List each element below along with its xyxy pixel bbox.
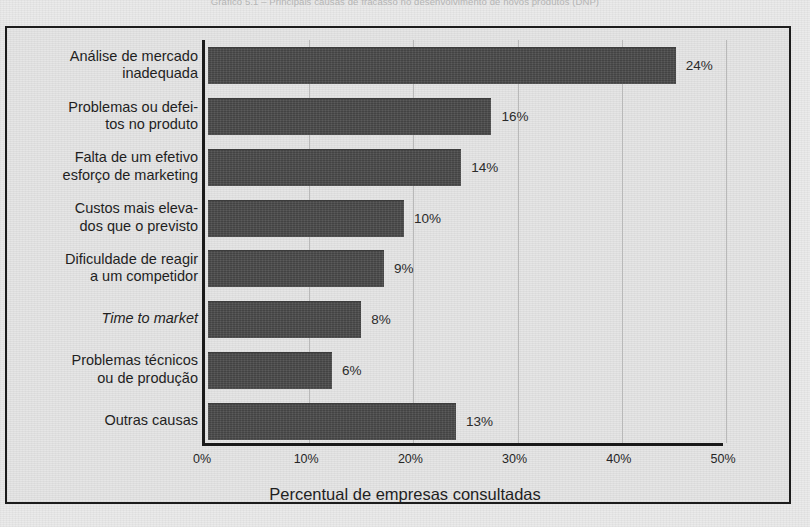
bar-row: 16% [208,98,723,134]
category-label: Time to market [10,310,198,328]
x-axis-ticks: 0%10%20%30%40%50% [202,452,723,470]
x-axis-tick-label: 40% [606,452,631,466]
bar [208,250,384,287]
x-axis-tick-label: 10% [294,452,319,466]
category-label-line: a um competidor [10,268,198,286]
bar-row: 24% [208,47,723,83]
category-label-line: inadequada [10,65,198,83]
bar [208,403,456,440]
category-label-line: tos no produto [10,116,198,134]
x-axis-title: Percentual de empresas consultadas [0,485,810,504]
bar-rows: 24%16%14%10%9%8%6%13% [205,40,723,443]
category-label-line: Análise de mercado [10,48,198,66]
category-label-line: ou de produção [10,370,198,388]
x-axis-tick-label: 0% [193,452,211,466]
category-label: Dificuldade de reagira um competidor [10,251,198,286]
category-label-line: Problemas ou defei- [10,99,198,117]
bar-value-label: 6% [342,362,362,377]
category-label: Problemas ou defei-tos no produto [10,99,198,134]
bar [208,98,491,135]
bar [208,301,361,338]
category-label-line: Problemas técnicos [10,352,198,370]
bar [208,200,404,237]
bar-row: 13% [208,403,723,439]
category-label: Outras causas [10,412,198,430]
bar-value-label: 9% [394,261,414,276]
bar [208,47,676,84]
category-label: Custos mais eleva-dos que o previsto [10,200,198,235]
category-label: Análise de mercadoinadequada [10,48,198,83]
category-label-line: Dificuldade de reagir [10,251,198,269]
bar [208,149,461,186]
bar-row: 10% [208,200,723,236]
plot-area: 24%16%14%10%9%8%6%13% [202,40,723,446]
bar-row: 9% [208,250,723,286]
bar [208,352,332,389]
bar-value-label: 10% [414,210,441,225]
plot-axes: 24%16%14%10%9%8%6%13% [202,40,723,446]
category-label-line: Falta de um efetivo [10,149,198,167]
category-label-line: Custos mais eleva- [10,200,198,218]
figure-caption: Gráfico 5.1 – Principais causas de fraca… [0,0,810,8]
category-label-line: Outras causas [10,412,198,430]
bar-value-label: 8% [371,312,391,327]
bar-value-label: 16% [501,109,528,124]
category-label-axis: Análise de mercadoinadequadaProblemas ou… [10,40,198,446]
bar-row: 6% [208,352,723,388]
bar-row: 8% [208,301,723,337]
category-label-line: dos que o previsto [10,218,198,236]
gridline [726,40,727,443]
category-label: Falta de um efetivoesforço de marketing [10,149,198,184]
x-axis-tick-label: 30% [502,452,527,466]
bar-value-label: 13% [466,413,493,428]
category-label-line: esforço de marketing [10,167,198,185]
bar-value-label: 24% [686,58,713,73]
x-axis-tick-label: 20% [398,452,423,466]
bar-value-label: 14% [471,159,498,174]
bar-row: 14% [208,149,723,185]
category-label: Problemas técnicosou de produção [10,352,198,387]
category-label-line: Time to market [10,310,198,328]
x-axis-tick-label: 50% [710,452,735,466]
